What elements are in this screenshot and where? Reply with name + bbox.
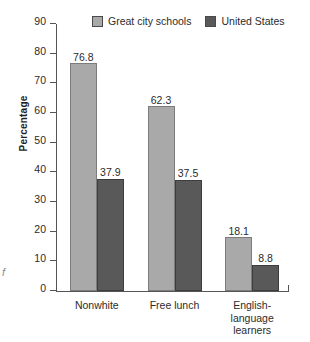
y-axis-tick-label: 80 bbox=[34, 46, 46, 57]
bar-value-label: 62.3 bbox=[151, 95, 171, 106]
x-axis-category-label: Nonwhite bbox=[58, 299, 136, 312]
category-label-line: Nonwhite bbox=[58, 299, 136, 312]
category-label-line: language bbox=[213, 312, 291, 325]
y-axis-tick-label: 70 bbox=[34, 75, 46, 86]
y-axis-tick: 80 bbox=[50, 53, 56, 54]
page-bleed-artifact: f bbox=[2, 267, 5, 278]
y-axis-tick-label: 10 bbox=[34, 253, 46, 264]
y-axis-tick-label: 90 bbox=[34, 16, 46, 27]
category-label-line: Free lunch bbox=[136, 299, 214, 312]
y-axis-line bbox=[56, 24, 57, 292]
bar-value-label: 76.8 bbox=[73, 52, 93, 63]
y-axis-tick: 0 bbox=[50, 290, 56, 291]
y-axis-tick: 40 bbox=[50, 171, 56, 172]
y-axis-tick-label: 20 bbox=[34, 224, 46, 235]
y-axis-tick: 50 bbox=[50, 142, 56, 143]
category-label-line: English- bbox=[213, 299, 291, 312]
y-axis-tick-label: 60 bbox=[34, 105, 46, 116]
y-axis-tick-label: 0 bbox=[40, 283, 46, 294]
y-axis-tick-label: 30 bbox=[34, 194, 46, 205]
y-axis-tick: 90 bbox=[50, 23, 56, 24]
bar[interactable]: 76.8 bbox=[70, 63, 97, 291]
y-axis-tick: 60 bbox=[50, 112, 56, 113]
bar[interactable]: 37.9 bbox=[97, 179, 124, 291]
bar-value-label: 37.5 bbox=[178, 168, 198, 179]
y-axis-title: Percentage bbox=[18, 84, 29, 164]
bar[interactable]: 8.8 bbox=[252, 265, 279, 291]
bar[interactable]: 37.5 bbox=[175, 180, 202, 291]
x-axis-line bbox=[56, 291, 289, 292]
y-axis-tick-label: 40 bbox=[34, 164, 46, 175]
y-axis-tick: 70 bbox=[50, 82, 56, 83]
x-axis-category-label: Free lunch bbox=[136, 299, 214, 312]
plot-area: 0102030405060708090 76.837.962.337.518.1… bbox=[56, 24, 289, 291]
y-axis-tick: 30 bbox=[50, 201, 56, 202]
bar-value-label: 18.1 bbox=[228, 226, 248, 237]
y-axis-tick: 10 bbox=[50, 260, 56, 261]
bar-value-label: 8.8 bbox=[258, 253, 273, 264]
y-axis-tick: 20 bbox=[50, 231, 56, 232]
category-label-line: learners bbox=[213, 324, 291, 337]
x-axis-category-label: English-languagelearners bbox=[213, 299, 291, 337]
bar-chart: f Great city schools United States Perce… bbox=[0, 0, 310, 342]
bar-value-label: 37.9 bbox=[100, 167, 120, 178]
bar[interactable]: 62.3 bbox=[148, 106, 175, 291]
bar[interactable]: 18.1 bbox=[225, 237, 252, 291]
x-axis-end-tick bbox=[288, 285, 289, 292]
y-axis-tick-label: 50 bbox=[34, 135, 46, 146]
